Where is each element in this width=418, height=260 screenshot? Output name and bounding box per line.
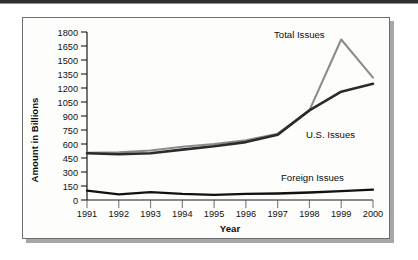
y-tick-label-1200: 1200 — [58, 84, 78, 94]
series-annotation-us-issues: U.S. Issues — [306, 129, 355, 140]
y-axis-ticks — [81, 32, 87, 200]
x-tick-label-1992: 1992 — [109, 209, 129, 219]
y-tick-label-1650: 1650 — [58, 42, 78, 52]
x-axis-title: Year — [220, 223, 241, 234]
page-top-rule-secondary — [0, 3, 418, 4]
x-tick-label-1995: 1995 — [204, 209, 224, 219]
series-line-foreign-issues — [87, 190, 373, 195]
x-tick-label-1991: 1991 — [77, 209, 97, 219]
x-tick-label-1994: 1994 — [172, 209, 192, 219]
y-tick-label-600: 600 — [63, 140, 78, 150]
figure-card: Amount in Billions 1800 1650 1500 1350 1… — [22, 17, 390, 239]
y-tick-label-900: 900 — [63, 112, 78, 122]
x-tick-label-1997: 1997 — [267, 209, 287, 219]
y-tick-label-1050: 1050 — [58, 98, 78, 108]
x-tick-label-1996: 1996 — [236, 209, 256, 219]
series-annotation-total-issues: Total Issues — [274, 29, 325, 40]
x-tick-label-1999: 1999 — [331, 209, 351, 219]
y-tick-label-300: 300 — [63, 168, 78, 178]
x-axis-ticks — [87, 200, 373, 208]
x-tick-label-1993: 1993 — [140, 209, 160, 219]
y-tick-label-0: 0 — [73, 196, 78, 206]
line-chart: Amount in Billions 1800 1650 1500 1350 1… — [23, 18, 391, 240]
y-tick-label-150: 150 — [63, 182, 78, 192]
y-tick-label-1350: 1350 — [58, 70, 78, 80]
chart-svg: Amount in Billions 1800 1650 1500 1350 1… — [23, 18, 391, 240]
x-tick-label-2000: 2000 — [363, 209, 383, 219]
y-tick-label-750: 750 — [63, 126, 78, 136]
series-annotation-foreign-issues: Foreign Issues — [281, 172, 344, 183]
y-axis-title: Amount in Billions — [29, 98, 40, 183]
y-tick-label-450: 450 — [63, 154, 78, 164]
y-tick-label-1500: 1500 — [58, 56, 78, 66]
series-line-us-issues — [87, 84, 373, 155]
x-tick-label-1998: 1998 — [299, 209, 319, 219]
y-tick-label-1800: 1800 — [58, 28, 78, 38]
